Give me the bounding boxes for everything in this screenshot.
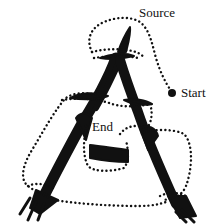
end-label: End xyxy=(92,120,113,133)
letter-a-figure xyxy=(0,0,215,224)
source-label: Source xyxy=(139,6,175,19)
start-label: Start xyxy=(181,86,206,99)
diagram-canvas: Source Start End xyxy=(0,0,215,224)
start-point-marker xyxy=(168,89,176,97)
